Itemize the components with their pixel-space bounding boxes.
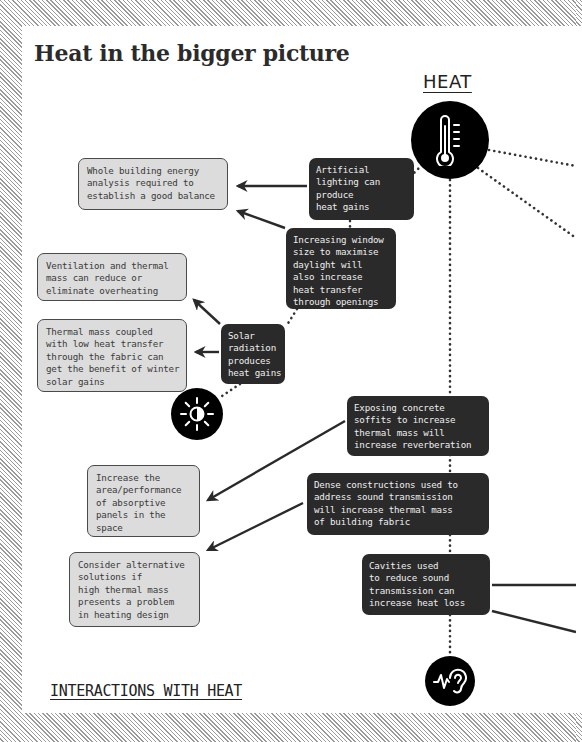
whole-building-box: Whole building energy analysis required … — [78, 158, 228, 210]
thermometer-icon — [427, 114, 473, 166]
solar-radiation-box: Solar radiation produces heat gains — [221, 324, 285, 384]
ventilation-box: Ventilation and thermal mass can reduce … — [37, 253, 187, 301]
acoustic-circle — [425, 656, 475, 706]
solar-circle — [171, 388, 223, 440]
alternative-solutions-box: Consider alternative solutions if high t… — [69, 552, 200, 627]
dense-constructions-box: Dense constructions used to address soun… — [307, 473, 489, 535]
heat-circle — [411, 101, 489, 179]
artificial-lighting-box: Artificial lighting can produce heat gai… — [309, 158, 414, 220]
cavities-box: Cavities used to reduce sound transmissi… — [362, 554, 490, 615]
window-size-box: Increasing window size to maximise dayli… — [286, 228, 396, 309]
sun-icon — [179, 396, 215, 432]
exposing-concrete-box: Exposing concrete soffits to increase th… — [347, 396, 489, 456]
absorptive-panels-box: Increase the area/performance of absorpt… — [87, 465, 200, 537]
thermal-mass-coupled-box: Thermal mass coupled with low heat trans… — [37, 319, 187, 392]
interactions-heading: INTERACTIONS WITH HEAT — [50, 682, 242, 700]
ear-sound-wave-icon — [433, 666, 467, 696]
